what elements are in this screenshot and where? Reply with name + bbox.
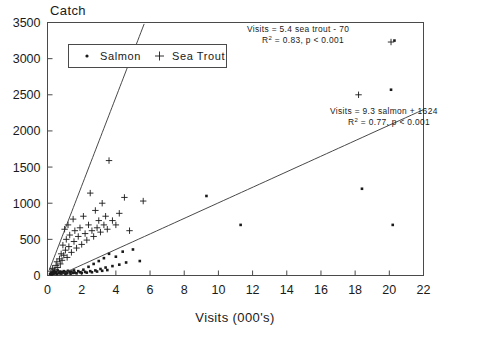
annotation-salmon: Visits = 9.3 salmon + 1624 R2 = 0.77, p … [330, 106, 438, 127]
data-point-sea-trout [71, 238, 77, 244]
data-point-salmon [91, 271, 94, 274]
data-point-sea-trout [77, 225, 83, 231]
annotation-sea-trout-r2: R2 = 0.83, p < 0.001 [262, 35, 344, 46]
y-tick-label: 500 [20, 233, 41, 247]
y-tick-label: 3000 [13, 52, 41, 66]
data-point-sea-trout [113, 222, 119, 228]
data-point-salmon [138, 260, 141, 263]
data-point-salmon [239, 224, 242, 227]
chart-page: 0500100015002000250030003500 02468101214… [0, 0, 485, 339]
data-point-sea-trout [90, 233, 96, 239]
series-sea-trout [48, 39, 395, 275]
x-tick-label: 4 [112, 283, 119, 297]
y-tick-label: 2500 [13, 88, 41, 102]
data-point-sea-trout [101, 222, 107, 228]
data-point-salmon [104, 266, 107, 269]
data-point-salmon [101, 270, 104, 273]
x-tick-label: 2 [78, 283, 85, 297]
x-tick-label: 14 [280, 283, 294, 297]
y-tick-label: 0 [34, 269, 41, 283]
data-point-sea-trout [72, 227, 78, 233]
data-point-sea-trout [66, 243, 72, 249]
data-point-sea-trout [355, 92, 361, 98]
data-point-sea-trout [140, 198, 146, 204]
annotation-salmon-equation: Visits = 9.3 salmon + 1624 [330, 106, 438, 116]
data-point-sea-trout [80, 213, 86, 219]
data-point-sea-trout [70, 216, 76, 222]
annotation-sea-trout: Visits = 5.4 sea trout - 70 R2 = 0.83, p… [247, 24, 349, 45]
data-point-salmon [97, 260, 100, 263]
data-point-sea-trout [94, 225, 100, 231]
y-tick-label: 1500 [13, 161, 41, 175]
data-point-sea-trout [68, 249, 74, 255]
data-point-salmon [80, 272, 83, 275]
series-salmon [49, 39, 396, 275]
legend-salmon-marker-icon [85, 54, 88, 57]
data-point-sea-trout [89, 227, 95, 233]
x-axis-title: Visits (000's) [195, 310, 274, 325]
legend-label-salmon: Salmon [100, 50, 141, 62]
data-point-sea-trout [67, 232, 73, 238]
data-point-salmon [86, 271, 89, 274]
data-point-sea-trout [96, 217, 102, 223]
data-point-sea-trout [85, 222, 91, 228]
data-point-salmon [111, 265, 114, 268]
data-point-salmon [118, 263, 121, 266]
data-point-salmon [96, 270, 99, 273]
data-point-salmon [103, 257, 106, 260]
data-point-sea-trout [126, 227, 132, 233]
scatter-chart: 0500100015002000250030003500 02468101214… [0, 0, 485, 339]
legend: Salmon Sea Trout [69, 45, 227, 68]
x-tick-label: 10 [211, 283, 225, 297]
data-point-sea-trout [75, 233, 81, 239]
x-tick-label: 18 [348, 283, 362, 297]
data-point-salmon [115, 255, 118, 258]
data-point-sea-trout [104, 226, 110, 232]
data-point-salmon [361, 187, 364, 190]
data-point-sea-trout [121, 194, 127, 200]
x-tick-label: 8 [181, 283, 188, 297]
y-axis-title: Catch [50, 3, 86, 18]
data-point-salmon [391, 224, 394, 227]
data-point-sea-trout [116, 210, 122, 216]
data-point-sea-trout [84, 237, 90, 243]
x-tick-label: 6 [147, 283, 154, 297]
data-point-salmon [92, 263, 95, 266]
data-point-salmon [132, 248, 135, 251]
data-point-salmon [205, 195, 208, 198]
x-axis-ticks [48, 271, 424, 276]
data-point-sea-trout [92, 207, 98, 213]
data-point-sea-trout [109, 217, 115, 223]
data-point-salmon [87, 266, 90, 269]
y-tick-label: 2000 [13, 124, 41, 138]
data-point-salmon [393, 39, 396, 42]
y-axis-tick-labels: 0500100015002000250030003500 [13, 16, 41, 283]
data-point-sea-trout [78, 241, 84, 247]
data-point-salmon [390, 88, 393, 91]
y-tick-label: 3500 [13, 16, 41, 30]
data-point-sea-trout [97, 229, 103, 235]
data-point-salmon [125, 261, 128, 264]
data-point-salmon [106, 269, 109, 272]
data-point-sea-trout [99, 200, 105, 206]
x-tick-label: 0 [44, 283, 51, 297]
x-tick-label: 20 [382, 283, 396, 297]
data-point-salmon [121, 250, 124, 253]
y-tick-label: 1000 [13, 197, 41, 211]
y-axis-ticks [48, 23, 53, 276]
salmon-fit [59, 110, 423, 276]
data-point-sea-trout [106, 157, 112, 163]
x-tick-label: 16 [314, 283, 328, 297]
data-point-sea-trout [87, 190, 93, 196]
x-axis-tick-labels: 0246810121416182022 [44, 283, 430, 297]
annotation-salmon-r2: R2 = 0.77, p < 0.001 [348, 117, 430, 128]
annotation-sea-trout-equation: Visits = 5.4 sea trout - 70 [247, 24, 349, 34]
x-tick-label: 12 [246, 283, 260, 297]
legend-label-sea-trout: Sea Trout [172, 50, 225, 62]
data-point-sea-trout [102, 213, 108, 219]
data-point-sea-trout [82, 230, 88, 236]
x-tick-label: 22 [417, 283, 431, 297]
data-point-sea-trout [63, 236, 69, 242]
data-point-sea-trout [73, 245, 79, 251]
